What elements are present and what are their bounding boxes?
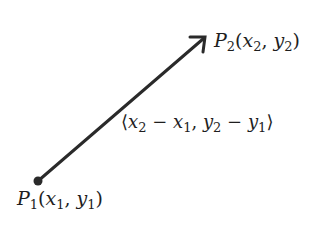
end-y-var: y [274,29,285,51]
start-point-index: 1 [30,197,38,212]
start-point-label: P1(x1, y1) [17,189,103,208]
start-point-dot [34,177,43,186]
end-x-sub: 2 [253,39,261,54]
comp2-a: y [203,111,213,132]
vector-component-label: ⟨x2 − x1, y2 − y1⟩ [121,113,273,131]
start-point-letter: P [17,187,30,209]
comp2-minus: − [227,111,242,132]
end-y-sub: 2 [284,39,292,54]
end-point-letter: P [214,29,227,51]
end-x-var: x [243,29,254,51]
end-point-label: P2(x2, y2) [214,31,300,50]
start-y-sub: 1 [87,197,95,212]
start-x-sub: 1 [56,197,64,212]
comp2-b: y [248,111,258,132]
vector-arrow [38,39,203,181]
right-angle-bracket: ⟩ [266,111,273,132]
comp1-minus: − [152,111,167,132]
end-point-index: 2 [227,39,235,54]
start-y-var: y [77,187,88,209]
start-x-var: x [46,187,57,209]
comp1-a: x [128,111,138,132]
comp1-b: x [173,111,183,132]
left-angle-bracket: ⟨ [121,111,128,132]
